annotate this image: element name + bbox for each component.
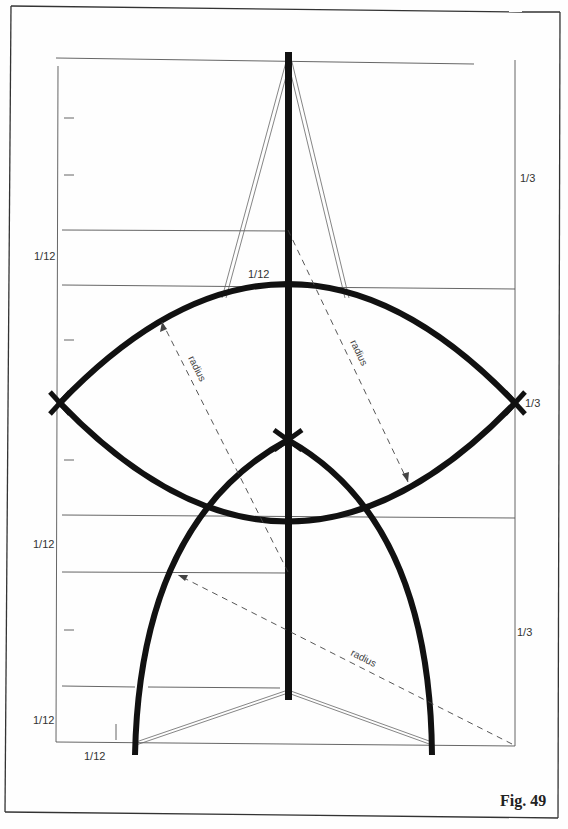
label-right-lower: 1/3 (517, 626, 532, 638)
label-right-middle: 1/3 (525, 397, 540, 409)
outer-frame (5, 6, 560, 818)
label-right-upper: 1/3 (520, 172, 535, 184)
radius-label-left: radius (186, 354, 208, 383)
tent-lines (136, 62, 432, 745)
label-top-center: 1/12 (248, 268, 269, 280)
label-left-lower: 1/12 (33, 714, 54, 726)
diagram-canvas: 1/12 1/12 1/12 1/12 1/12 1/3 1/3 1/3 rad… (0, 0, 568, 829)
label-bottom-left: 1/12 (84, 750, 105, 762)
label-left-middle: 1/12 (33, 538, 54, 550)
radius-lines (162, 230, 512, 744)
central-axis (285, 52, 292, 700)
arch-arcs (135, 440, 432, 755)
figure-caption: Fig. 49 (500, 792, 546, 810)
label-left-upper: 1/12 (34, 250, 55, 262)
radius-label-bottom: radius (349, 647, 378, 669)
